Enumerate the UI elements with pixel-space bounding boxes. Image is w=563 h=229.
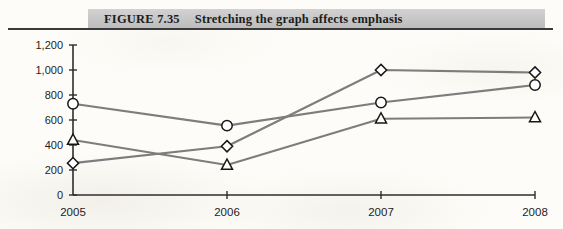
figure-page: FIGURE 7.35 Stretching the graph affects… xyxy=(0,0,563,229)
x-tick-label: 2007 xyxy=(368,206,394,218)
x-tick-label: 2006 xyxy=(214,206,240,218)
y-axis-ticks: 02004006008001,0001,200 xyxy=(35,39,77,201)
series-line-triangle xyxy=(73,118,535,166)
y-tick-label: 0 xyxy=(57,189,63,201)
data-point-circle xyxy=(530,80,540,90)
figure-number: FIGURE 7.35 xyxy=(104,12,180,27)
data-point-circle xyxy=(376,97,386,107)
data-point-diamond xyxy=(67,158,78,169)
y-tick-label: 600 xyxy=(45,114,63,126)
data-point-triangle xyxy=(67,134,78,144)
data-point-diamond xyxy=(375,64,386,75)
data-point-circle xyxy=(222,120,232,130)
y-tick-label: 1,200 xyxy=(35,39,63,51)
data-series-layer xyxy=(67,64,540,169)
y-tick-label: 400 xyxy=(45,139,63,151)
figure-caption: FIGURE 7.35 Stretching the graph affects… xyxy=(104,10,403,28)
x-tick-label: 2005 xyxy=(60,206,86,218)
figure-title: Stretching the graph affects emphasis xyxy=(195,12,403,27)
y-tick-label: 200 xyxy=(45,164,63,176)
chart-svg: 02004006008001,0001,200 2005200620072008 xyxy=(0,34,563,229)
line-chart: 02004006008001,0001,200 2005200620072008 xyxy=(0,34,563,229)
data-point-circle xyxy=(68,99,78,109)
y-tick-label: 1,000 xyxy=(35,64,63,76)
series-line-diamond xyxy=(73,70,535,163)
caption-divider-rule xyxy=(8,28,553,30)
x-tick-label: 2008 xyxy=(522,206,548,218)
y-tick-label: 800 xyxy=(45,89,63,101)
data-point-diamond xyxy=(529,67,540,78)
data-point-diamond xyxy=(221,141,232,152)
series-line-circle xyxy=(73,85,535,126)
